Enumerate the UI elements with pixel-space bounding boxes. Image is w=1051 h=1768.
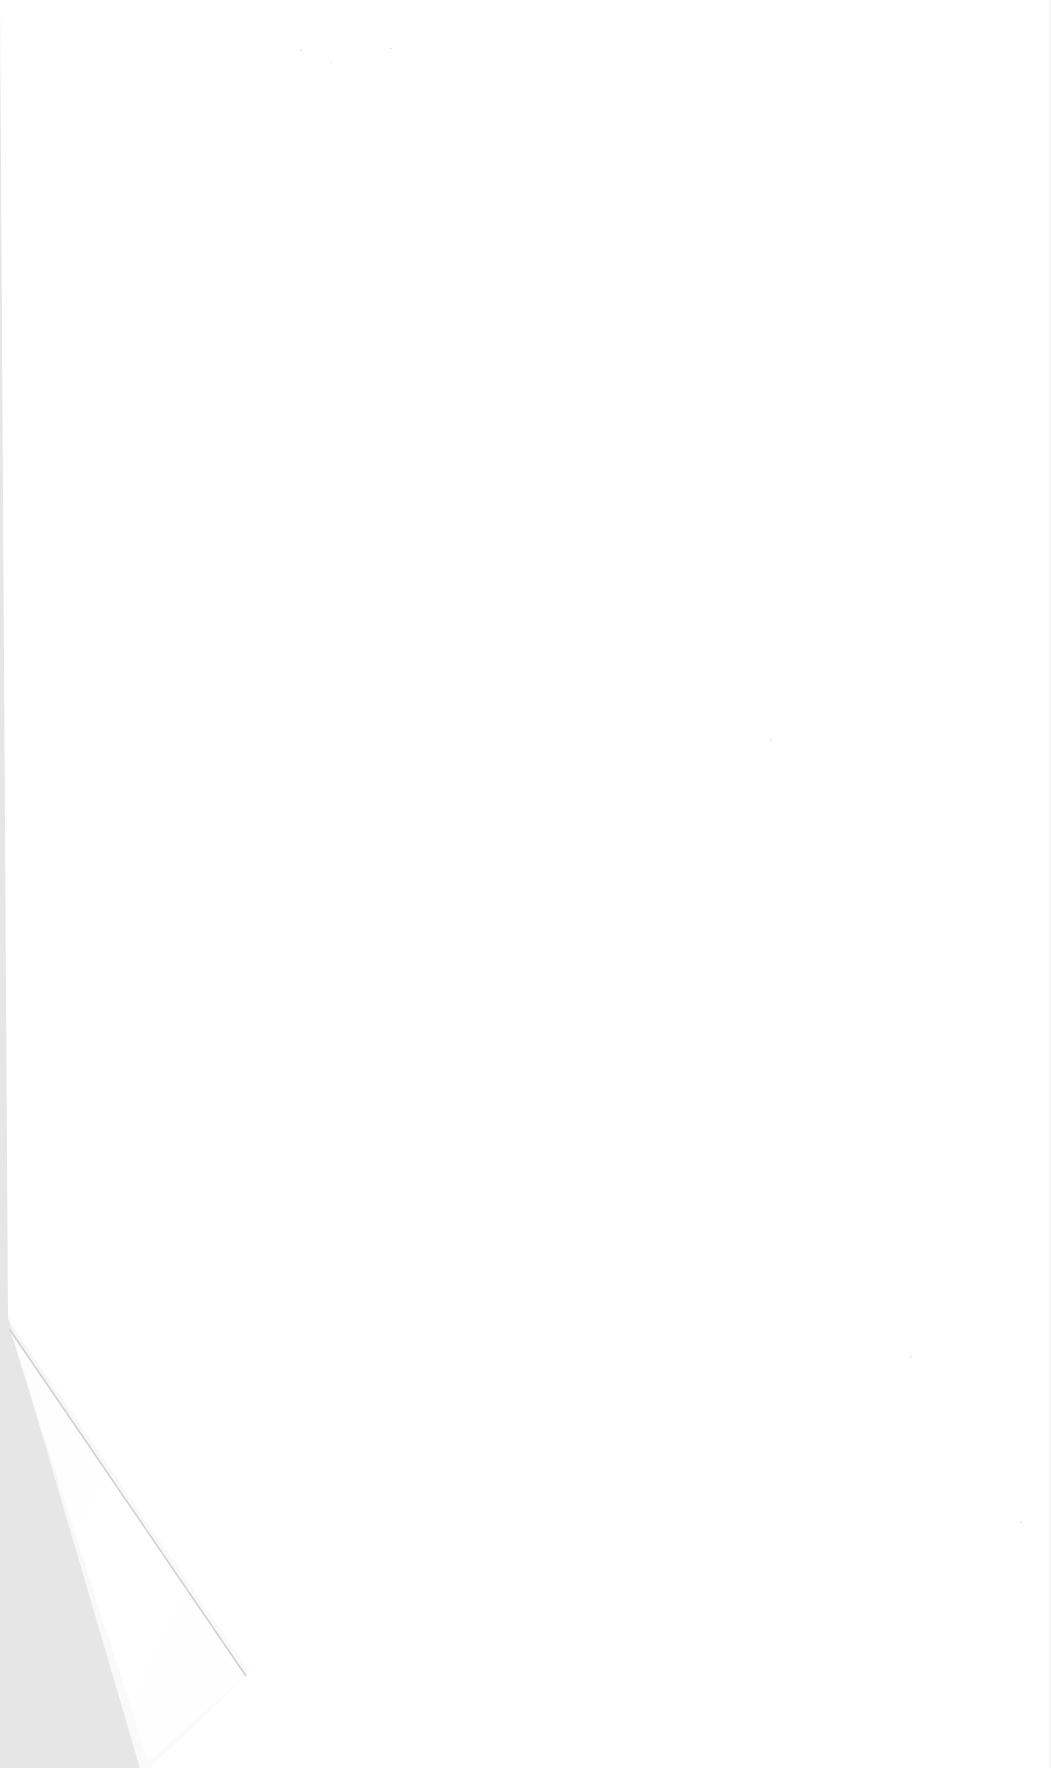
scan-speck xyxy=(0,1640,2,1641)
scan-background xyxy=(0,0,1051,1768)
scan-speck xyxy=(330,62,332,63)
paper-sheet xyxy=(0,0,1051,1768)
scan-speck xyxy=(390,48,392,49)
scan-speck xyxy=(1020,1522,1022,1523)
scan-speck xyxy=(910,1356,912,1357)
scan-speck xyxy=(770,740,772,741)
scan-speck xyxy=(300,50,302,51)
